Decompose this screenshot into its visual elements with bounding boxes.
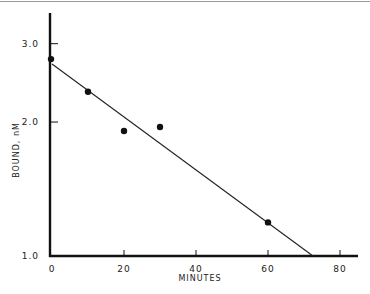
ticks: 0204060801.02.03.0: [22, 39, 347, 274]
data-point: [121, 128, 127, 134]
x-tick-label: 0: [49, 264, 56, 274]
data-point: [85, 88, 91, 94]
data-point: [157, 124, 163, 130]
y-tick-label: 1.0: [22, 251, 39, 261]
x-axis-label: MINUTES: [178, 274, 221, 283]
data-point: [48, 56, 54, 62]
x-tick-label: 80: [333, 264, 346, 274]
data-point: [265, 219, 271, 225]
y-tick-label: 2.0: [22, 117, 39, 127]
chart: 0204060801.02.03.0 MINUTES BOUND, nM: [0, 0, 370, 294]
axes: [49, 13, 358, 257]
y-axis-label: BOUND, nM: [12, 122, 21, 178]
regression-line: [52, 64, 313, 256]
fit-line: [52, 64, 313, 256]
x-tick-label: 40: [189, 264, 202, 274]
x-tick-label: 20: [117, 264, 130, 274]
x-tick-label: 60: [261, 264, 274, 274]
y-tick-label: 3.0: [22, 39, 39, 49]
